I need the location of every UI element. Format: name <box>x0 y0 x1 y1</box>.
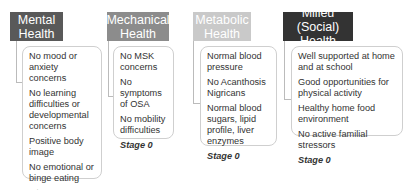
header-line-1: Metabolic <box>195 13 249 27</box>
header-metabolic-health: MetabolicHealth <box>193 12 251 41</box>
list-item: Good opportunities for physical activity <box>298 77 397 99</box>
card-mental-health: No mood or anxiety concerns No learning … <box>22 46 102 179</box>
stage-label: Stage 0 <box>29 188 96 190</box>
list-item: No emotional or binge eating <box>29 162 96 184</box>
header-milieu-social-health: Milieu (Social)Health <box>283 12 353 41</box>
card-mechanical-health: No MSK concerns No symptoms of OSA No mo… <box>113 46 174 139</box>
list-item: No active familial stressors <box>298 129 397 151</box>
list-item: Normal blood pressure <box>207 51 271 73</box>
header-line-1: Mechanical <box>106 13 169 27</box>
list-item: No MSK concerns <box>120 51 168 73</box>
header-mechanical-health: MechanicalHealth <box>107 12 169 41</box>
header-line-2: Health <box>204 27 240 41</box>
list-item: Healthy home food environment <box>298 103 397 125</box>
header-mental-health: MentalHealth <box>10 12 63 41</box>
stage-label: Stage 0 <box>207 151 271 162</box>
list-item: Well supported at home and at school <box>298 51 397 73</box>
header-line-2: Health <box>18 27 54 41</box>
card-milieu-social-health: Well supported at home and at school Goo… <box>291 46 403 136</box>
header-line-1: Mental <box>18 13 56 27</box>
stage-label: Stage 0 <box>298 155 397 166</box>
stage-label: Stage 0 <box>120 140 168 151</box>
list-item: No symptoms of OSA <box>120 77 168 110</box>
card-metabolic-health: Normal blood pressure No Acanthosis Nigr… <box>200 46 277 146</box>
list-item: Normal blood sugars, lipid profile, live… <box>207 103 271 147</box>
list-item: No Acanthosis Nigricans <box>207 77 271 99</box>
list-item: No learning difficulties or developmenta… <box>29 88 96 132</box>
list-item: No mood or anxiety concerns <box>29 51 96 84</box>
header-line-2: Health <box>120 27 156 41</box>
list-item: Positive body image <box>29 136 96 158</box>
list-item: No mobility difficulties <box>120 114 168 136</box>
header-line-1: Milieu (Social) <box>297 6 339 34</box>
